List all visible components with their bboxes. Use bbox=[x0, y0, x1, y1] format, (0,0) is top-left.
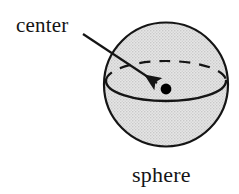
label-sphere: sphere bbox=[132, 164, 191, 186]
center-dot bbox=[161, 84, 172, 95]
label-center: center bbox=[16, 15, 69, 36]
sphere-figure: center sphere bbox=[0, 0, 239, 194]
